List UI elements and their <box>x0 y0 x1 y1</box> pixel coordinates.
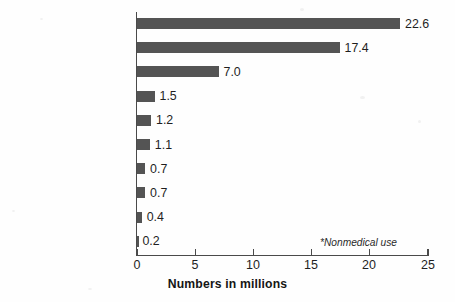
value-label-any-illicit-drug: 22.6 <box>405 18 429 30</box>
x-tick-mark <box>253 249 254 255</box>
value-label-stimulants: 1.1 <box>155 139 172 151</box>
value-label-cocaine: 1.5 <box>160 90 177 102</box>
x-tick-mark <box>427 249 428 255</box>
x-tick-label-5: 5 <box>192 258 199 272</box>
x-axis-title: Numbers in millions <box>0 277 455 291</box>
value-label-heroin: 0.2 <box>142 235 159 247</box>
bar-hallucinogens <box>137 115 151 126</box>
bar-marijuana <box>137 42 340 53</box>
bar-psychotherapeutics <box>137 66 219 77</box>
value-label-methamphetamine: 0.4 <box>147 211 164 223</box>
value-label-ecstasy: 0.7 <box>150 163 167 175</box>
bar-chart: 0 5 10 15 20 25 Any Illicit Drug Marijua… <box>0 0 455 302</box>
x-tick-label-15: 15 <box>304 258 318 272</box>
bar-any-illicit-drug <box>137 18 400 29</box>
x-tick-label-10: 10 <box>246 258 260 272</box>
value-label-marijuana: 17.4 <box>345 42 369 54</box>
bar-ecstasy <box>137 163 145 174</box>
x-tick-label-20: 20 <box>362 258 376 272</box>
bar-methamphetamine <box>137 212 142 223</box>
footnote-nonmedical-use: *Nonmedical use <box>320 237 397 248</box>
x-tick-label-25: 25 <box>421 258 435 272</box>
bar-inhalants <box>137 187 145 198</box>
value-label-inhalants: 0.7 <box>150 187 167 199</box>
bar-cocaine <box>137 91 155 102</box>
bar-heroin <box>137 236 139 247</box>
value-label-psychotherapeutics: 7.0 <box>224 66 241 78</box>
value-label-hallucinogens: 1.2 <box>156 114 173 126</box>
bar-stimulants <box>137 139 150 150</box>
x-tick-mark <box>311 249 312 255</box>
x-tick-label-0: 0 <box>134 258 141 272</box>
x-tick-mark <box>136 249 137 255</box>
x-axis-line <box>136 255 429 256</box>
x-tick-mark <box>195 249 196 255</box>
x-tick-mark <box>369 249 370 255</box>
